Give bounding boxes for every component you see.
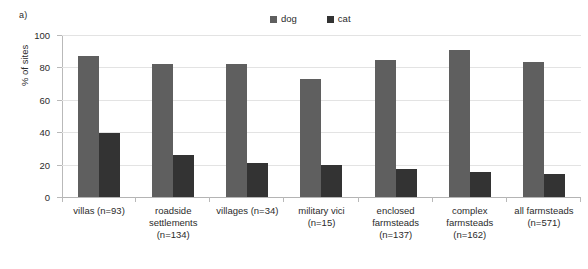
bar-cat <box>470 172 491 197</box>
legend-item-cat: cat <box>327 14 351 24</box>
legend-item-dog: dog <box>270 14 297 24</box>
chart-figure: a) dog cat % of sites 020406080100 villa… <box>0 0 588 269</box>
y-axis-tick: 80 <box>57 67 62 68</box>
y-axis-tick-label: 60 <box>39 94 50 105</box>
panel-label: a) <box>19 10 27 20</box>
legend-swatch-dog <box>270 16 277 23</box>
x-axis-label-line: farmsteads <box>434 217 506 229</box>
bar-group <box>210 35 284 197</box>
x-axis-label-line: (n=571) <box>508 217 580 229</box>
x-axis-label: military vici(n=15) <box>284 205 358 241</box>
plot-area <box>62 35 581 197</box>
x-axis-label-line: all farmsteads <box>508 205 580 217</box>
legend-swatch-cat <box>327 16 334 23</box>
x-axis-label: complexfarmsteads(n=162) <box>433 205 507 241</box>
bar-cat <box>173 155 194 197</box>
y-axis-tick: 60 <box>57 100 62 101</box>
x-axis-label: roadsidesettlements(n=134) <box>136 205 210 241</box>
x-axis-tick <box>284 197 358 202</box>
bar-dog <box>226 64 247 197</box>
x-axis-tick <box>507 197 581 202</box>
bar-cat <box>396 169 417 197</box>
bar-cat <box>321 165 342 197</box>
x-axis-label-line: enclosed <box>360 205 432 217</box>
x-axis-label-line: farmsteads <box>360 217 432 229</box>
y-axis-tick: 40 <box>57 132 62 133</box>
x-axis-label: all farmsteads(n=571) <box>507 205 581 241</box>
y-axis-tick-label: 0 <box>45 192 50 203</box>
x-axis-label-line: villages (n=34) <box>211 205 283 217</box>
y-axis-tick-label: 100 <box>34 30 50 41</box>
x-axis-label: villages (n=34) <box>210 205 284 241</box>
bar-cat <box>99 133 120 197</box>
x-axis-tick <box>62 197 136 202</box>
bar-cat <box>247 163 268 197</box>
bar-group <box>136 35 210 197</box>
y-axis-tick: 100 <box>57 35 62 36</box>
x-axis-label: villas (n=93) <box>62 205 136 241</box>
bar-group <box>433 35 507 197</box>
bar-group <box>284 35 358 197</box>
x-axis-label-line: (n=162) <box>434 229 506 241</box>
bar-dog <box>78 56 99 197</box>
x-axis-label-line: (n=134) <box>137 229 209 241</box>
bar-group <box>62 35 136 197</box>
y-axis-title: % of sites <box>19 74 30 86</box>
chart-legend: dog cat <box>270 12 351 26</box>
x-axis-labels: villas (n=93)roadsidesettlements(n=134)v… <box>62 205 581 241</box>
bar-group <box>507 35 581 197</box>
x-axis-ticks <box>62 197 581 202</box>
bar-group <box>359 35 433 197</box>
bar-dog <box>152 64 173 197</box>
x-axis-tick <box>210 197 284 202</box>
bar-groups <box>62 35 581 197</box>
x-axis-label-line: (n=137) <box>360 229 432 241</box>
x-axis-tick <box>359 197 433 202</box>
bar-dog <box>449 50 470 197</box>
x-axis-tick <box>136 197 210 202</box>
y-axis-tick-label: 80 <box>39 62 50 73</box>
y-axis-tick-label: 40 <box>39 127 50 138</box>
bar-dog <box>375 60 396 197</box>
bar-cat <box>544 174 565 197</box>
x-axis-label-line: villas (n=93) <box>63 205 135 217</box>
x-axis-label-line: military vici <box>285 205 357 217</box>
x-axis-label-line: settlements <box>137 217 209 229</box>
x-axis-tick <box>433 197 507 202</box>
legend-label-dog: dog <box>281 14 297 24</box>
bar-dog <box>300 79 321 197</box>
y-axis-tick: 20 <box>57 165 62 166</box>
bar-dog <box>523 62 544 197</box>
legend-label-cat: cat <box>338 14 351 24</box>
x-axis-label: enclosedfarmsteads(n=137) <box>359 205 433 241</box>
x-axis-label-line: roadside <box>137 205 209 217</box>
x-axis-label-line: (n=15) <box>285 217 357 229</box>
y-axis-tick-label: 20 <box>39 159 50 170</box>
x-axis-label-line: complex <box>434 205 506 217</box>
